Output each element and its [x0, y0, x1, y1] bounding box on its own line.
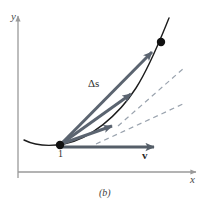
velocity-vector-label: v: [142, 150, 148, 161]
physics-figure-panel-b: y x 1 v Δs (b): [0, 0, 211, 208]
start-point-label: 1: [58, 149, 63, 159]
displacement-vector-label: Δs: [88, 78, 99, 89]
displacement-vectors-group: [61, 52, 152, 144]
panel-caption: (b): [99, 188, 111, 198]
displacement-vector-long: [61, 52, 152, 144]
dashed-guides-group: [96, 68, 184, 144]
end-point: [157, 38, 165, 46]
displacement-vector-mid: [61, 94, 131, 144]
figure-canvas: [0, 0, 211, 208]
x-axis-label: x: [190, 174, 195, 185]
y-axis-label: y: [11, 11, 16, 22]
